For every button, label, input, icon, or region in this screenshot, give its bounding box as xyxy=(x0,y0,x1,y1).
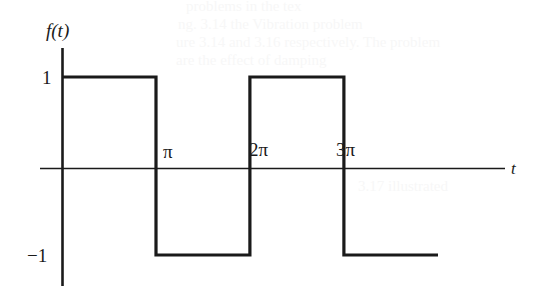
y-tick-label-neg-one: −1 xyxy=(27,246,47,265)
x-axis-label: t xyxy=(511,160,516,177)
y-axis-label: f(t) xyxy=(46,21,69,40)
square-wave-curve xyxy=(62,77,438,255)
x-tick-label-pi: π xyxy=(163,142,173,161)
square-wave-figure xyxy=(0,0,543,294)
x-tick-label-3pi: 3π xyxy=(336,140,355,159)
x-tick-label-2pi: 2π xyxy=(249,140,268,159)
y-tick-label-pos-one: 1 xyxy=(42,68,52,87)
